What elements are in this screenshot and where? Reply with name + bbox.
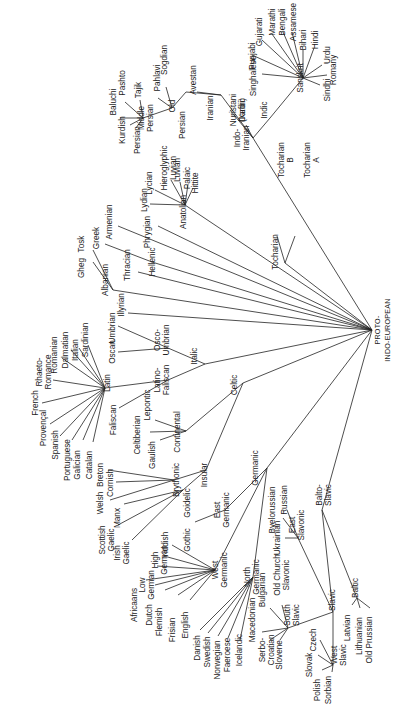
node-label-spanish: Spanish [51,430,60,460]
node-label-tosk: Tosk [77,235,86,253]
node-label-latin: Latin [103,374,112,392]
node-label-southSlavic-line2: Slavic [292,604,301,626]
node-label-pashto: Pashto [118,70,127,96]
node-label-baluchi: Baluchi [109,88,118,115]
node-label-rhaetoRomance-line2: Romance [44,354,53,389]
node-label-sogdian: Sogdian [160,45,169,75]
node-label-indoiranian-line2: Iranian [242,125,251,150]
node-label-cornish: Cornish [106,468,115,497]
node-label-phrygian: Phrygian [143,215,152,248]
node-label-serboCroatian: Serbo- [258,637,267,662]
node-label-scottishGaelic: Scottish [98,525,107,555]
node-label-celtic: Celtic [230,375,239,395]
node-label-provencal: Provençal [39,410,48,447]
edge-brythonic-cornish [116,480,174,482]
node-label-norwegian: Norwegian [213,640,222,680]
node-label-irishGaelic-line2: Gaelic [122,541,131,564]
edge-baltic-oldPrussian [357,598,370,608]
node-label-slavic: Slavic [328,589,337,611]
edge-latin-rhaetoRomance [53,380,105,388]
node-label-eastSlavonic-line2: Slavonic [297,510,306,541]
node-label-manx: Manx [113,508,122,528]
node-label-tochB: Tocharian [277,142,286,178]
node-label-sindhi: Sindhi [323,78,332,101]
node-label-english: English [181,611,190,638]
node-label-bengali: Bengali [278,8,287,35]
node-label-danish: Danish [193,635,202,661]
node-label-nuristani: Nuristani [229,94,238,126]
node-label-greek: Greek [92,226,101,249]
node-label-polish: Polish [313,678,322,701]
node-label-latinoFaliscan-line2: Faliscan [162,364,171,395]
node-label-sorbian: Sorbian [324,675,333,704]
tree-edges [42,32,372,672]
node-label-albanian: Albanian [101,264,110,296]
node-label-latinoFaliscan: Latino- [153,367,162,392]
edge-pie-italic [205,330,372,364]
node-label-italian: Italian [71,339,80,361]
edge-westGermanic-yiddish [172,545,215,570]
node-label-welsh: Welsh [96,491,105,514]
edge-pie-celtic [243,330,372,383]
node-label-russian: Russian [280,485,289,515]
node-label-gheg: Gheg [77,258,86,278]
node-label-middlePersian-line2: Persian [146,104,155,132]
edge-tocharian-tochA [285,236,295,263]
edge-southSlavic-macedonian [262,628,288,632]
node-label-highGerman: High [151,551,160,568]
edge-indoiranian-indic [253,118,270,138]
node-label-slovak: Slovak [305,652,314,677]
node-label-tochA-line2: A [312,157,321,163]
node-label-oscan: Oscan [108,340,117,364]
node-label-oscoUmbrian: Osco- [153,329,162,351]
node-label-eastGermanic-line2: Germanic [222,492,231,528]
node-label-africaans: Africaans [130,588,139,622]
node-label-baltic: Baltic [351,578,360,598]
node-label-eastSlavonic: East [288,516,297,533]
node-label-sanskrit: Sanskrit [296,62,305,92]
node-label-celtiberian: Celtiberian [133,415,142,455]
tree-labels: PROTO-INDO-EUROPEANTocharianTocharianBTo… [31,2,392,704]
edge-brythonic-welsh [110,480,174,500]
node-label-continental: Continental [173,411,182,453]
edge-pie-albanian [113,290,372,330]
node-label-tochB-line2: B [286,157,295,163]
node-label-lithuanian: Lithuanian [355,617,364,655]
edge-pie-armenian [118,226,372,330]
edge-sanskrit-sindhi [303,78,320,85]
node-label-indoiranian: Indo- [233,128,242,147]
node-label-galician: Galician [73,450,82,480]
edge-pie-baltoSlavic [322,330,372,510]
node-label-lowGerman-line2: German [147,570,156,600]
node-label-dalmatian: Dalmatian [61,331,70,368]
node-label-slovene: Slovene [275,640,284,670]
node-label-kurdish: Kurdish [118,116,127,144]
node-label-hellenic: Hellenic [148,247,157,276]
node-label-bihari: Bihari [299,29,308,50]
node-label-faliscan: Faliscan [109,404,118,435]
node-label-baltoSlavic: Balto- [315,484,324,506]
node-label-gujarati: Gujarati [255,17,264,46]
node-label-westSlavic: West [330,645,339,664]
node-label-lepontic: Lepontic [143,390,152,421]
node-label-dardic: Dardic [238,98,247,122]
node-label-hindi: Hindi [311,30,320,49]
node-label-umbrian: Umbrian [108,312,117,343]
node-label-marathi: Marathi [268,8,277,35]
node-label-persianOld: Persian [178,111,187,139]
node-label-tochA: Tocharian [303,142,312,178]
node-label-illyrian: Illyrian [117,293,126,317]
node-label-hierLuvian: Hieroglyphic [160,145,169,190]
node-label-dutch: Dutch [145,604,154,626]
node-label-insular: Insular [200,462,209,487]
node-label-westGermanic-line2: Germanic [220,552,229,588]
node-label-assamese: Assamese [289,2,298,41]
node-label-oldChurchSlavonic-line2: Slavonic [282,560,291,591]
node-label-portuguese: Portuguese [63,439,72,481]
node-label-palaic: Palaic [183,167,192,189]
node-label-indic: Indic [260,101,269,118]
indo-european-tree-diagram: PROTO-INDO-EUROPEANTocharianTocharianBTo… [0,0,410,705]
node-label-faeroese: Faeroese [223,637,232,672]
node-label-frisian: Frisian [168,617,177,642]
node-label-sardinian: Sardinian [81,322,90,357]
